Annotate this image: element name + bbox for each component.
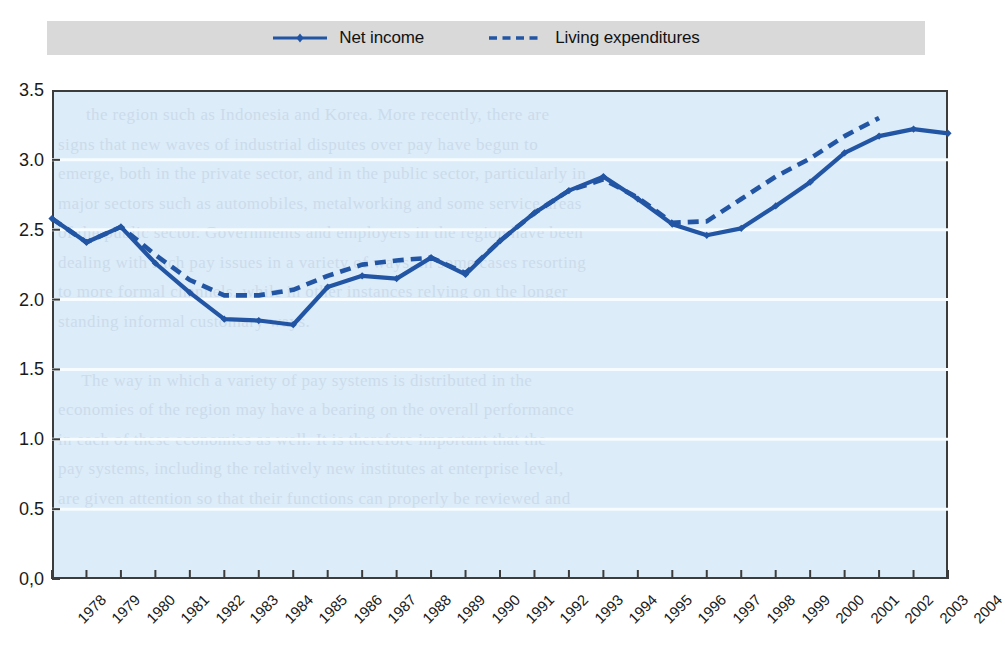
legend-entry-living-expenditures: Living expenditures [488, 28, 700, 48]
x-tick-label: 1995 [660, 591, 696, 627]
x-tick-label: 1979 [108, 591, 144, 627]
x-tick-label: 1983 [246, 591, 282, 627]
y-tick-label: 0.5 [19, 499, 44, 520]
y-tick-label: 1.5 [19, 359, 44, 380]
x-tick-label: 1993 [591, 591, 627, 627]
x-tick-label: 1981 [177, 591, 213, 627]
x-tick-label: 1990 [487, 591, 523, 627]
chart-plot [52, 90, 948, 579]
x-tick-label: 1996 [694, 591, 730, 627]
y-tick-label: 2.5 [19, 219, 44, 240]
x-tick-label: 1985 [315, 591, 351, 627]
x-tick-label: 1991 [522, 591, 558, 627]
legend-swatch-solid-line-icon [272, 31, 328, 45]
x-tick-label: 2000 [832, 591, 868, 627]
x-tick-label: 1997 [729, 591, 765, 627]
x-tick-label: 1994 [625, 591, 661, 627]
x-tick-label: 1987 [384, 591, 420, 627]
y-tick-label: 0,0 [19, 569, 44, 590]
x-tick-label: 1984 [281, 591, 317, 627]
x-tick-label: 1989 [453, 591, 489, 627]
x-tick-label: 2002 [901, 591, 937, 627]
data-point-marker [944, 130, 951, 137]
x-tick-label: 2003 [935, 591, 971, 627]
x-tick-label: 1986 [349, 591, 385, 627]
x-tick-label: 1999 [797, 591, 833, 627]
x-tick-label: 1988 [418, 591, 454, 627]
x-tick-label: 1982 [212, 591, 248, 627]
chart-legend: Net income Living expenditures [47, 21, 925, 55]
y-tick-label: 1.0 [19, 429, 44, 450]
y-tick-label: 3.0 [19, 149, 44, 170]
legend-entries: Net income Living expenditures [47, 21, 925, 55]
x-axis: 1978197919801981198219831984198519861987… [52, 585, 948, 665]
x-tick-label: 1992 [556, 591, 592, 627]
x-tick-label: 2001 [866, 591, 902, 627]
legend-label-net-income: Net income [339, 28, 424, 48]
legend-swatch-dashed-line-icon [488, 31, 544, 45]
data-point-marker [255, 317, 262, 324]
y-tick-label: 3.5 [19, 80, 44, 101]
series-line-living-expenditures [52, 118, 879, 295]
y-axis: 3.53.02.52.01.51.00.50,0 [0, 90, 44, 579]
x-tick-label: 1998 [763, 591, 799, 627]
legend-entry-net-income: Net income [272, 28, 424, 48]
x-tick-label: 1978 [74, 591, 110, 627]
x-tick-label: 2004 [970, 591, 1005, 627]
x-tick-label: 1980 [143, 591, 179, 627]
gridlines [52, 160, 948, 509]
y-tick-label: 2.0 [19, 289, 44, 310]
legend-label-living-expenditures: Living expenditures [555, 28, 700, 48]
